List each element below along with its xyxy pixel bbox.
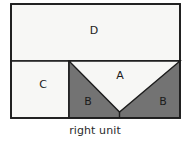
geometry-diagram: D C A B B right unit <box>0 0 190 141</box>
figure-caption: right unit <box>69 124 121 137</box>
region-label-b-left: B <box>84 95 92 108</box>
figure-container: D C A B B right unit <box>0 0 190 141</box>
region-label-b-right: B <box>159 95 167 108</box>
region-label-c: C <box>39 78 47 91</box>
region-label-d: D <box>90 24 98 37</box>
region-label-a: A <box>116 69 124 82</box>
